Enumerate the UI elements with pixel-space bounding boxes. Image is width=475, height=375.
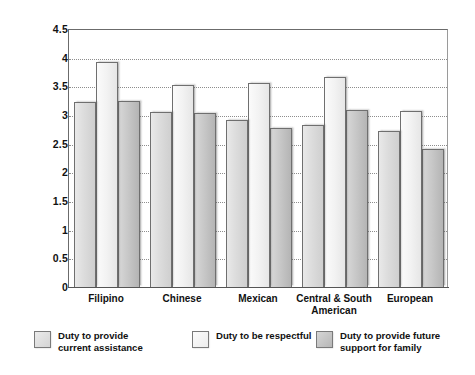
bar[interactable] (248, 83, 270, 287)
bar-group (297, 30, 373, 287)
y-tick-label: 1.5 (34, 195, 68, 207)
y-tick-label: 2 (34, 166, 68, 178)
bar[interactable] (150, 112, 172, 287)
bar[interactable] (172, 85, 194, 287)
bar-group (69, 30, 145, 287)
legend-swatch-icon (34, 331, 51, 348)
y-tick-label: 3 (34, 109, 68, 121)
legend-label: Duty to provide future support for famil… (340, 330, 440, 353)
bar[interactable] (96, 62, 118, 287)
bar[interactable] (346, 110, 368, 287)
bar-group (221, 30, 297, 287)
bar-group (373, 30, 449, 287)
legend-swatch-icon (316, 331, 333, 348)
bar[interactable] (226, 120, 248, 287)
bar[interactable] (118, 101, 140, 287)
x-axis-line (68, 287, 449, 288)
bar[interactable] (74, 102, 96, 287)
y-tick-label: 0 (34, 281, 68, 293)
y-tick-label: 4 (34, 52, 68, 64)
y-tick-label: 0.5 (34, 252, 68, 264)
bar[interactable] (270, 128, 292, 287)
legend-item[interactable]: Duty to provide current assistance (34, 330, 143, 353)
legend-label: Duty to provide current assistance (58, 330, 143, 353)
y-tick-label: 2.5 (34, 138, 68, 150)
plot-area (68, 29, 448, 287)
legend-item[interactable]: Duty to provide future support for famil… (316, 330, 440, 353)
chart-legend: Duty to provide current assistanceDuty t… (34, 330, 454, 370)
legend-item[interactable]: Duty to be respectful (192, 330, 311, 348)
y-axis: Strength of Value 4.543.532.521.510.50 (0, 0, 68, 375)
bar[interactable] (302, 125, 324, 287)
x-category-label: European (364, 293, 456, 305)
bar[interactable] (194, 113, 216, 287)
legend-label: Duty to be respectful (216, 330, 311, 342)
bar[interactable] (324, 77, 346, 287)
y-tick-label: 1 (34, 224, 68, 236)
bar[interactable] (378, 131, 400, 287)
legend-swatch-icon (192, 331, 209, 348)
y-tick-label: 3.5 (34, 80, 68, 92)
bar[interactable] (400, 111, 422, 287)
bar[interactable] (422, 149, 444, 287)
bar-group (145, 30, 221, 287)
bar-chart: Strength of Value 4.543.532.521.510.50 F… (0, 0, 475, 375)
y-tick-label: 4.5 (34, 23, 68, 35)
